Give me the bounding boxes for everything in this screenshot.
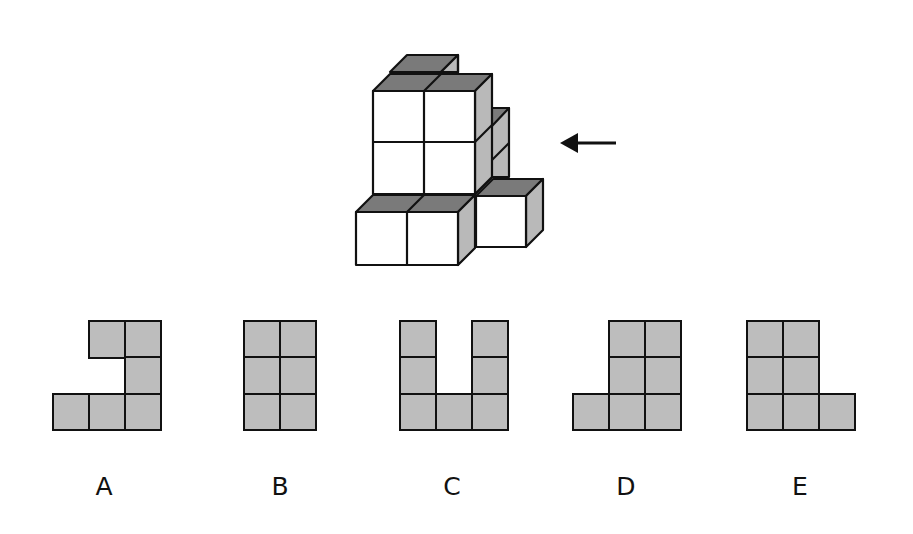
option-cell xyxy=(609,357,645,394)
option-label-e[interactable]: E xyxy=(780,472,820,501)
option-cell xyxy=(400,394,436,430)
option-cell xyxy=(747,394,783,430)
option-cell xyxy=(280,321,316,358)
option-cell xyxy=(645,394,681,430)
option-cell xyxy=(280,394,316,430)
option-cell xyxy=(573,394,609,430)
option-a[interactable] xyxy=(53,321,161,430)
option-cell xyxy=(747,357,783,394)
option-cell xyxy=(645,321,681,358)
option-label-b[interactable]: B xyxy=(260,472,300,501)
option-cell xyxy=(89,394,125,430)
option-cell xyxy=(400,321,436,358)
option-e[interactable] xyxy=(747,321,855,430)
option-cell xyxy=(280,357,316,394)
option-cell xyxy=(609,394,645,430)
option-cell xyxy=(783,321,819,358)
option-cell xyxy=(125,357,161,394)
option-cell xyxy=(609,321,645,358)
option-cell xyxy=(472,357,508,394)
option-cell xyxy=(89,321,125,358)
option-cell xyxy=(125,321,161,358)
puzzle-stage: A B C D E xyxy=(0,0,913,534)
option-label-d[interactable]: D xyxy=(606,472,646,501)
option-cell xyxy=(819,394,855,430)
option-cell xyxy=(244,394,280,430)
option-label-c[interactable]: C xyxy=(432,472,472,501)
cube-figure xyxy=(356,55,543,265)
option-cell xyxy=(244,321,280,358)
option-cell xyxy=(747,321,783,358)
option-cell xyxy=(783,394,819,430)
option-cell xyxy=(472,321,508,358)
option-cell xyxy=(472,394,508,430)
option-cell xyxy=(783,357,819,394)
option-cell xyxy=(53,394,89,430)
cube-front-right xyxy=(476,196,526,247)
option-cell xyxy=(645,357,681,394)
left-arrow-icon xyxy=(560,133,578,153)
option-c[interactable] xyxy=(400,321,508,430)
puzzle-svg xyxy=(0,0,913,534)
option-cell xyxy=(125,394,161,430)
option-label-a[interactable]: A xyxy=(84,472,124,501)
option-cell xyxy=(400,357,436,394)
answer-options xyxy=(53,321,855,430)
option-cell xyxy=(436,394,472,430)
view-arrow xyxy=(560,133,616,153)
option-cell xyxy=(244,357,280,394)
option-d[interactable] xyxy=(573,321,681,430)
option-b[interactable] xyxy=(244,321,316,430)
